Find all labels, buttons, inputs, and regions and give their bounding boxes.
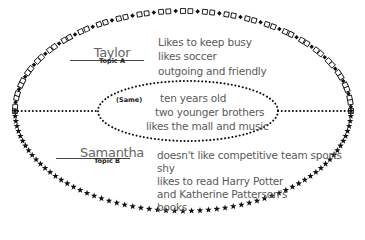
bottom-trait: doesn't like competitive team sports xyxy=(157,149,342,162)
center-trait: two younger brothers xyxy=(155,105,269,119)
top-trait: Likes to keep busy xyxy=(158,35,267,49)
top-trait: likes soccer xyxy=(158,49,267,63)
bottom-traits-list: doesn't like competitive team sports shy… xyxy=(157,149,342,214)
bottom-topic-label: Topic B xyxy=(62,157,152,165)
center-trait: likes the mall and music xyxy=(146,119,269,133)
bottom-trait: likes to read Harry Potter xyxy=(157,175,342,188)
center-trait: ten years old xyxy=(160,91,269,105)
top-traits-list: Likes to keep busy likes soccer outgoing… xyxy=(158,35,267,80)
bottom-trait: books xyxy=(157,201,342,214)
bottom-trait: and Katherine Patterson's xyxy=(157,188,342,201)
top-trait: outgoing and friendly xyxy=(158,63,267,80)
top-topic-label: Topic A xyxy=(72,57,152,65)
center-label: (Same) xyxy=(116,96,142,104)
center-traits-list: ten years old two younger brothers likes… xyxy=(160,91,269,133)
bottom-trait: shy xyxy=(157,162,342,175)
